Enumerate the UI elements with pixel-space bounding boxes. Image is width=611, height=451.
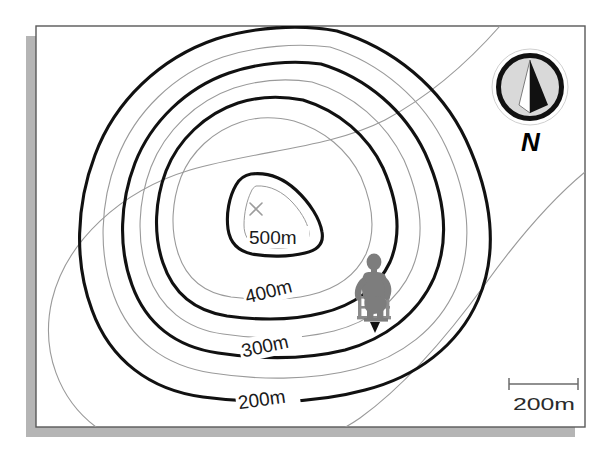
contour-label-500m-text: 500m xyxy=(249,227,297,248)
map-figure: 500m 400m 300m 200m xyxy=(0,0,611,451)
scale-bar: 200m xyxy=(509,378,578,414)
contour-label-500m: 500m xyxy=(247,226,309,248)
compass-north-label: N xyxy=(521,127,541,157)
scale-bar-label: 200m xyxy=(513,395,575,414)
topographic-map-canvas: 500m 400m 300m 200m xyxy=(0,0,611,451)
